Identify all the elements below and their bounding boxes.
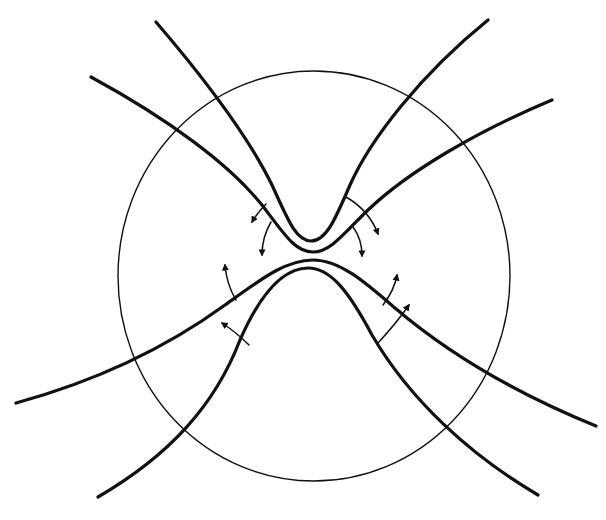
field-line-diagram [0, 0, 606, 520]
arrow-lower-left-upward [225, 265, 236, 300]
arrows-group [222, 197, 409, 345]
boundary-circle [118, 71, 510, 481]
arrow-lower-right-outward [378, 305, 409, 343]
lower-inner-arch-line [98, 268, 538, 497]
lower-outer-arch-line [16, 260, 596, 426]
diagram-canvas [0, 0, 606, 520]
upper-inner-v-line [156, 20, 488, 241]
upper-left-outer-line [91, 77, 552, 252]
arrow-upper-right-downward [353, 227, 362, 256]
arrow-upper-left-downward [262, 222, 271, 255]
arrow-upper-left-outward [252, 204, 266, 222]
